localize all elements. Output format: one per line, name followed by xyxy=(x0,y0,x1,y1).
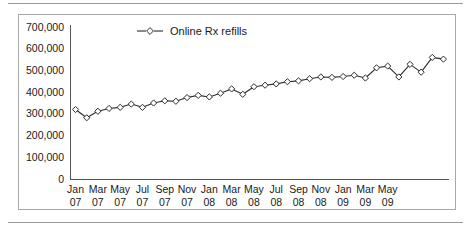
data-point-marker: 390,000 xyxy=(240,91,246,97)
x-axis-tick-month: May xyxy=(244,183,265,195)
data-point-marker: 432,000 xyxy=(262,82,268,88)
y-axis-tick-label: 600,000 xyxy=(26,42,64,54)
top-divider-rule xyxy=(8,3,463,4)
x-axis-tick-labels: Jan07Mar07May07Jul07Sep07Nov07Jan08Mar08… xyxy=(67,183,398,208)
x-axis-tick-month: Jan xyxy=(335,183,352,195)
x-axis-tick-year: 08 xyxy=(203,196,215,208)
y-axis-tick-label: 0 xyxy=(58,173,64,185)
data-point-marker: 350,000 xyxy=(151,100,157,106)
x-axis-tick-month: Mar xyxy=(223,183,242,195)
x-axis-tick-year: 07 xyxy=(70,196,82,208)
data-point-marker: 360,000 xyxy=(162,98,168,104)
chart-svg: 700,000600,000500,000400,000300,000200,0… xyxy=(19,15,457,211)
y-axis-tick-label: 200,000 xyxy=(26,129,64,141)
x-axis-tick-year: 09 xyxy=(337,196,349,208)
x-axis-tick-month: Jul xyxy=(270,183,283,195)
data-point-marker: 395,000 xyxy=(217,90,223,96)
x-axis-tick-month: Jan xyxy=(201,183,218,195)
y-axis-tick-label: 700,000 xyxy=(26,21,64,33)
data-point-marker: 345,000 xyxy=(128,101,134,107)
data-point-marker: 470,000 xyxy=(318,74,324,80)
data-point-marker: 312,000 xyxy=(95,108,101,114)
data-point-marker: 438,000 xyxy=(273,81,279,87)
data-point-marker: 462,000 xyxy=(307,76,313,82)
x-axis-tick-year: 08 xyxy=(315,196,327,208)
series-group: 320,000282,000312,000325,000330,000345,0… xyxy=(72,54,446,121)
x-axis-tick-year: 08 xyxy=(293,196,305,208)
x-axis-tick-month: Mar xyxy=(356,183,375,195)
x-axis-tick-month: Sep xyxy=(155,183,174,195)
y-axis-tick-label: 500,000 xyxy=(26,64,64,76)
x-axis-tick-year: 07 xyxy=(181,196,193,208)
data-point-marker: 478,000 xyxy=(351,72,357,78)
x-axis-tick-month: Mar xyxy=(89,183,108,195)
x-axis-tick-year: 07 xyxy=(159,196,171,208)
legend: Online Rx refills xyxy=(137,25,248,37)
y-axis-tick-label: 400,000 xyxy=(26,86,64,98)
data-point-marker: 325,000 xyxy=(106,105,112,111)
line-chart: 700,000600,000500,000400,000300,000200,0… xyxy=(19,15,457,211)
x-axis-tick-month: Jan xyxy=(67,183,84,195)
data-point-marker: 330,000 xyxy=(139,104,145,110)
data-point-marker: 358,000 xyxy=(173,98,179,104)
legend-marker-diamond xyxy=(147,28,154,35)
data-point-marker: 468,000 xyxy=(329,74,335,80)
data-point-marker: 385,000 xyxy=(195,92,201,98)
x-axis-tick-year: 09 xyxy=(360,196,372,208)
x-axis-tick-year: 08 xyxy=(248,196,260,208)
x-axis-tick-year: 08 xyxy=(226,196,238,208)
x-axis-tick-year: 09 xyxy=(382,196,394,208)
data-point-marker: 378,000 xyxy=(206,94,212,100)
data-point-marker: 452,000 xyxy=(295,78,301,84)
x-axis-tick-month: Jul xyxy=(136,183,149,195)
x-axis-tick-year: 07 xyxy=(92,196,104,208)
x-axis-tick-month: Nov xyxy=(178,183,197,195)
x-axis-tick-year: 07 xyxy=(114,196,126,208)
data-point-marker: 472,000 xyxy=(340,73,346,79)
x-axis-tick-year: 08 xyxy=(270,196,282,208)
x-axis-tick-month: May xyxy=(378,183,399,195)
axis-lines xyxy=(70,25,449,179)
data-point-marker: 425,000 xyxy=(251,84,257,90)
y-axis-tick-labels: 700,000600,000500,000400,000300,000200,0… xyxy=(26,21,64,185)
bottom-divider-rule xyxy=(8,222,463,223)
x-axis-tick-month: May xyxy=(110,183,131,195)
data-point-marker: 330,000 xyxy=(117,104,123,110)
x-axis-tick-month: Nov xyxy=(311,183,330,195)
y-axis-tick-label: 100,000 xyxy=(26,151,64,163)
data-point-marker: 415,000 xyxy=(229,86,235,92)
data-point-marker: 552,000 xyxy=(440,56,446,62)
y-axis-tick-label: 300,000 xyxy=(26,107,64,119)
x-axis-tick-month: Sep xyxy=(289,183,308,195)
legend-label-online-rx-refills: Online Rx refills xyxy=(170,25,248,37)
data-point-marker: 375,000 xyxy=(184,94,190,100)
x-axis-tick-year: 07 xyxy=(137,196,149,208)
figure-frame: 700,000600,000500,000400,000300,000200,0… xyxy=(18,14,456,210)
data-point-marker: 448,000 xyxy=(284,79,290,85)
